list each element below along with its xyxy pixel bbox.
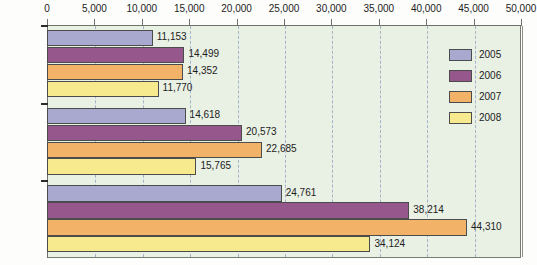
x-axis-tick-label: 25,000 bbox=[269, 3, 300, 14]
gridline bbox=[522, 26, 523, 257]
bar-2007-attacks bbox=[47, 64, 183, 80]
bar-chart: 05,00010,00015,00020,00025,00030,00035,0… bbox=[0, 0, 537, 265]
x-axis-tick bbox=[284, 19, 285, 26]
bar-2006-deaths bbox=[47, 125, 242, 141]
x-axis-tick bbox=[474, 19, 475, 26]
bar-2007-deaths bbox=[47, 142, 262, 158]
bar-value-label: 15,765 bbox=[200, 160, 231, 171]
x-axis-tick-label: 10,000 bbox=[127, 3, 158, 14]
legend-swatch-icon bbox=[449, 91, 472, 103]
legend-swatch-icon bbox=[449, 49, 472, 61]
legend-label: 2006 bbox=[479, 70, 501, 81]
legend-label: 2008 bbox=[479, 112, 501, 123]
bar-2006-attacks bbox=[47, 47, 184, 63]
x-axis-tick bbox=[189, 19, 190, 26]
legend-label: 2007 bbox=[479, 91, 501, 102]
bar-value-label: 14,499 bbox=[188, 48, 219, 59]
bar-value-label: 34,124 bbox=[374, 238, 405, 249]
bar-2008-attacks bbox=[47, 81, 159, 97]
bar-value-label: 44,310 bbox=[471, 221, 502, 232]
x-axis-tick-label: 5,000 bbox=[82, 3, 107, 14]
bar-value-label: 11,770 bbox=[163, 82, 193, 93]
bar-2006-injuries bbox=[47, 202, 409, 218]
legend-label: 2005 bbox=[479, 49, 501, 60]
x-axis-tick-label: 20,000 bbox=[221, 3, 252, 14]
x-axis-tick-label: 40,000 bbox=[411, 3, 442, 14]
legend-item-2006[interactable]: 2006 bbox=[449, 67, 501, 84]
x-axis-tick-label: 50,000 bbox=[506, 3, 537, 14]
x-axis-tick bbox=[237, 19, 238, 26]
y-axis-tick bbox=[41, 25, 48, 27]
bar-2008-deaths bbox=[47, 158, 196, 174]
bar-value-label: 38,214 bbox=[413, 204, 444, 215]
x-axis-tick-label: 0 bbox=[44, 3, 50, 14]
bar-2005-deaths bbox=[47, 108, 186, 124]
bar-value-label: 11,153 bbox=[157, 31, 187, 42]
bar-value-label: 14,618 bbox=[190, 109, 221, 120]
x-axis-tick bbox=[521, 19, 522, 26]
x-axis-tick-label: 30,000 bbox=[316, 3, 347, 14]
bar-2007-injuries bbox=[47, 219, 467, 235]
x-axis-tick bbox=[331, 19, 332, 26]
x-axis-tick bbox=[426, 19, 427, 26]
bar-value-label: 24,761 bbox=[286, 187, 317, 198]
x-axis-tick-label: 15,000 bbox=[174, 3, 205, 14]
x-axis-tick-label: 45,000 bbox=[458, 3, 489, 14]
legend: 2005200620072008 bbox=[449, 46, 501, 130]
legend-swatch-icon bbox=[449, 112, 472, 124]
x-axis-tick bbox=[142, 19, 143, 26]
legend-item-2007[interactable]: 2007 bbox=[449, 88, 501, 105]
legend-swatch-icon bbox=[449, 70, 472, 82]
bar-value-label: 14,352 bbox=[187, 65, 218, 76]
x-axis-tick-label: 35,000 bbox=[364, 3, 395, 14]
y-axis-tick bbox=[41, 103, 48, 105]
y-axis-tick bbox=[41, 180, 48, 182]
bar-2008-injuries bbox=[47, 236, 370, 252]
bar-2005-injuries bbox=[47, 185, 282, 201]
legend-item-2005[interactable]: 2005 bbox=[449, 46, 501, 63]
bar-value-label: 20,573 bbox=[246, 126, 277, 137]
x-axis-tick bbox=[379, 19, 380, 26]
legend-item-2008[interactable]: 2008 bbox=[449, 109, 501, 126]
bar-2005-attacks bbox=[47, 30, 153, 46]
bar-value-label: 22,685 bbox=[266, 143, 297, 154]
x-axis-tick bbox=[94, 19, 95, 26]
